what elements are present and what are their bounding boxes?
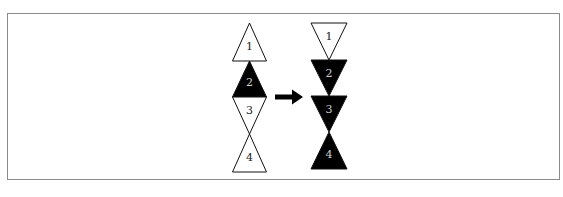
after-stack-triangle-1: 1 <box>311 23 347 60</box>
before-stack: 1234 <box>233 23 267 172</box>
triangle-label: 4 <box>326 148 333 161</box>
after-stack-triangle-3: 3 <box>311 96 347 132</box>
before-stack-triangle-2: 2 <box>233 61 267 97</box>
diagram-canvas: 1234 1234 <box>0 0 563 197</box>
after-stack-triangle-4: 4 <box>311 132 347 169</box>
triangle-label: 2 <box>246 76 253 89</box>
after-stack-triangle-2: 2 <box>311 60 347 96</box>
triangle-label: 1 <box>246 40 253 53</box>
triangle-label: 3 <box>246 104 253 117</box>
triangle-label: 2 <box>326 67 333 80</box>
before-stack-triangle-3: 3 <box>233 97 267 134</box>
triangle-label: 4 <box>246 151 253 164</box>
transform-arrow <box>275 90 303 105</box>
triangle-label: 1 <box>326 30 333 43</box>
arrow-shaft <box>275 95 294 100</box>
before-stack-triangle-1: 1 <box>233 23 267 61</box>
arrow-head <box>292 90 303 105</box>
triangle-label: 3 <box>326 103 333 116</box>
after-stack: 1234 <box>311 23 347 169</box>
before-stack-triangle-4: 4 <box>233 134 267 172</box>
